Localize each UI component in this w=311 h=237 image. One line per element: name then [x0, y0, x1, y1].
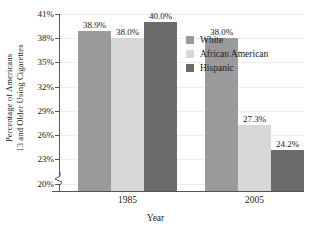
- bar[interactable]: 24.2%: [271, 150, 304, 191]
- bar-value-label: 24.2%: [276, 139, 299, 149]
- y-axis-tick-label: 26%: [38, 130, 55, 140]
- x-axis-tick-label-2005: 2005: [245, 195, 264, 205]
- bar-value-label: 38.0%: [116, 27, 139, 37]
- legend: WhiteAfrican AmericanHispanic: [186, 33, 268, 75]
- y-axis-tick-label: 20%: [38, 179, 55, 189]
- legend-label: African American: [200, 49, 268, 59]
- axis-break-icon: [53, 172, 66, 186]
- x-axis-tick-label-1985: 1985: [118, 195, 137, 205]
- bar-chart-figure: Percentage of Americans 13 and Older Usi…: [0, 0, 311, 237]
- y-axis-tick-label: 41%: [38, 9, 55, 19]
- legend-swatch-icon: [186, 50, 194, 58]
- legend-swatch-icon: [186, 64, 194, 72]
- legend-item[interactable]: Hispanic: [186, 61, 268, 75]
- x-axis-line: [52, 191, 304, 192]
- bar-value-label: 40.0%: [149, 11, 172, 21]
- legend-swatch-icon: [186, 36, 194, 44]
- y-axis-tick-labels: 20%23%26%29%32%35%38%41%: [26, 0, 56, 195]
- bar-value-label: 27.3%: [243, 114, 266, 124]
- bar-group-1985: 38.9%38.0%40.0%: [78, 14, 177, 191]
- y-axis-title-line-1: Percentage of Americans: [4, 44, 15, 151]
- legend-label: White: [200, 35, 223, 45]
- y-axis-tick-label: 23%: [38, 154, 55, 164]
- y-axis-title-line-2: 13 and Older Using Cigarettes: [15, 44, 26, 151]
- x-axis-title: Year: [0, 213, 311, 223]
- bar[interactable]: 38.9%: [78, 31, 111, 191]
- legend-label: Hispanic: [200, 63, 234, 73]
- y-axis-tick-label: 35%: [38, 57, 55, 67]
- y-axis-tick-label: 29%: [38, 106, 55, 116]
- y-axis-line: [59, 14, 60, 177]
- bar[interactable]: 27.3%: [238, 125, 271, 191]
- legend-item[interactable]: White: [186, 33, 268, 47]
- y-axis-tick-label: 38%: [38, 33, 55, 43]
- y-axis-tick-label: 32%: [38, 82, 55, 92]
- bar[interactable]: 40.0%: [144, 22, 177, 191]
- bar-value-label: 38.9%: [83, 20, 106, 30]
- bar[interactable]: 38.0%: [111, 38, 144, 191]
- legend-item[interactable]: African American: [186, 47, 268, 61]
